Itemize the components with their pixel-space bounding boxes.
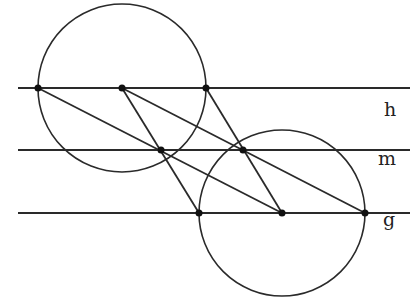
label-g: g [383,208,395,230]
point-2 [119,85,126,92]
label-m: m [378,147,396,169]
geometry-diagram: h m g [0,0,418,303]
point-4 [158,147,165,154]
diagram-canvas [0,0,418,303]
label-h: h [384,98,396,120]
point-7 [279,210,286,217]
point-8 [362,210,369,217]
point-3 [203,85,210,92]
point-1 [35,85,42,92]
point-5 [240,147,247,154]
point-6 [196,210,203,217]
